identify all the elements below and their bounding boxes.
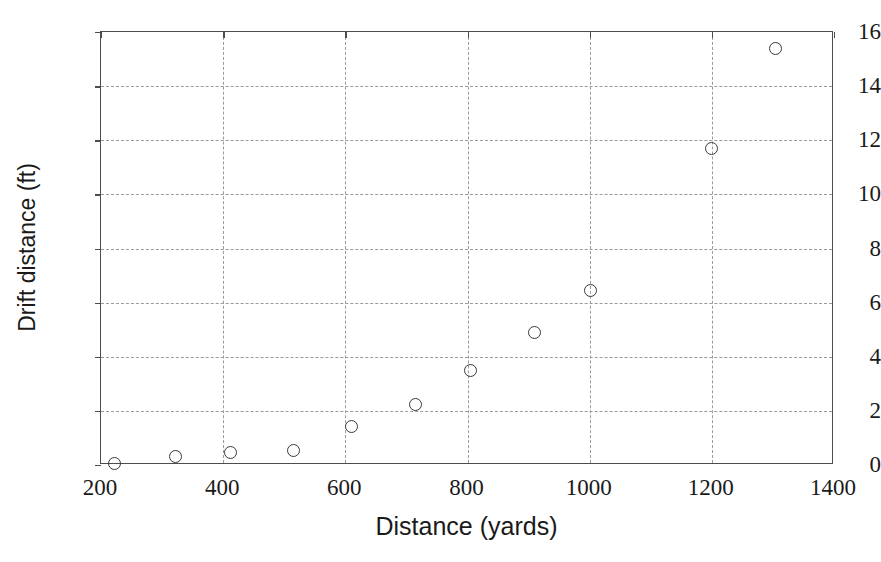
x-axis-title: Distance (yards) — [100, 512, 833, 541]
y-tick-mark — [95, 303, 101, 304]
x-tick-mark — [468, 32, 469, 38]
data-point — [224, 446, 237, 459]
data-point — [409, 398, 422, 411]
y-tick-mark — [95, 249, 101, 250]
gridline-horizontal — [101, 86, 832, 87]
data-point — [705, 142, 718, 155]
gridline-horizontal — [101, 140, 832, 141]
x-tick-mark — [101, 32, 102, 38]
gridline-horizontal — [101, 411, 832, 412]
x-tick-label: 600 — [327, 476, 362, 499]
data-point — [769, 42, 782, 55]
y-tick-mark — [95, 86, 101, 87]
y-tick-mark — [95, 194, 101, 195]
data-point — [584, 284, 597, 297]
x-tick-mark — [590, 32, 591, 38]
plot-area — [100, 31, 833, 464]
x-tick-mark — [345, 32, 346, 38]
x-tick-mark — [712, 32, 713, 38]
y-tick-mark — [95, 411, 101, 412]
y-axis-title-text: Drift distance (ft) — [14, 163, 41, 332]
gridline-vertical — [345, 32, 346, 463]
gridline-horizontal — [101, 194, 832, 195]
gridline-vertical — [712, 32, 713, 463]
y-tick-mark — [95, 465, 101, 466]
x-tick-mark — [834, 32, 835, 38]
x-tick-label: 400 — [205, 476, 240, 499]
data-point — [464, 364, 477, 377]
data-point — [169, 450, 182, 463]
x-tick-label: 200 — [83, 476, 118, 499]
x-tick-label: 1000 — [566, 476, 612, 499]
y-axis-title: Drift distance (ft) — [12, 31, 42, 464]
x-tick-label: 800 — [449, 476, 484, 499]
data-point — [345, 420, 358, 433]
gridline-horizontal — [101, 357, 832, 358]
data-point — [528, 326, 541, 339]
y-tick-mark — [95, 357, 101, 358]
scatter-chart-figure: Drift distance (ft) 0246810121416 200400… — [0, 0, 881, 562]
data-point — [287, 444, 300, 457]
y-tick-mark — [95, 140, 101, 141]
gridline-vertical — [468, 32, 469, 463]
x-tick-label: 1400 — [810, 476, 856, 499]
gridline-horizontal — [101, 303, 832, 304]
gridline-vertical — [223, 32, 224, 463]
gridline-vertical — [590, 32, 591, 463]
gridline-horizontal — [101, 249, 832, 250]
x-tick-mark — [223, 32, 224, 38]
x-tick-label: 1200 — [688, 476, 734, 499]
data-point — [108, 457, 121, 470]
